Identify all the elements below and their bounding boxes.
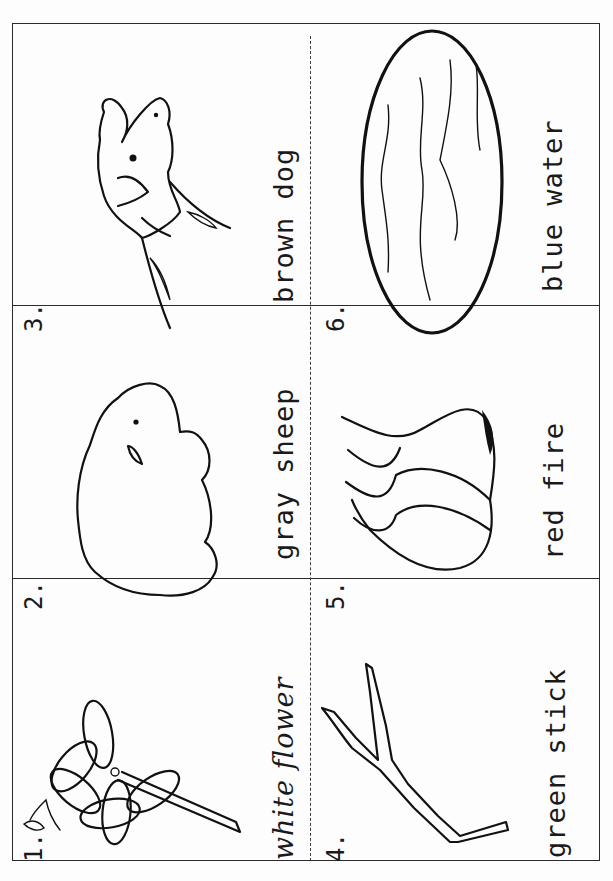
stick-icon bbox=[0, 0, 613, 881]
worksheet-page: 3. brown dog 6. blue water 2. gray sheep bbox=[0, 0, 613, 881]
